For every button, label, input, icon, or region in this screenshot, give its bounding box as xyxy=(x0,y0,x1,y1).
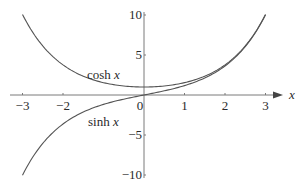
x-axis-arrow-icon xyxy=(273,92,283,99)
curve-labels: cosh xsinh x xyxy=(87,67,120,129)
x-axis-label: x xyxy=(288,87,295,102)
sinh-label: sinh x xyxy=(88,114,119,129)
y-tick-label: −10 xyxy=(122,167,142,182)
x-tick-label: −3 xyxy=(16,98,30,113)
x-tick-label: 3 xyxy=(262,98,269,113)
x-tick-label: 1 xyxy=(181,98,188,113)
y-tick-label: −5 xyxy=(128,127,142,142)
x-tick-label: 0 xyxy=(137,98,144,113)
x-ticks: −3−20123 xyxy=(16,93,269,113)
x-tick-label: 2 xyxy=(222,98,229,113)
y-tick-label: 5 xyxy=(136,47,143,62)
x-tick-label: −2 xyxy=(56,98,70,113)
x-axis: x −3−20123 xyxy=(10,87,295,113)
y-tick-label: 10 xyxy=(129,7,142,22)
chart: 105−5−10 x −3−20123 cosh xsinh x xyxy=(0,0,302,186)
cosh-label: cosh x xyxy=(87,67,120,82)
